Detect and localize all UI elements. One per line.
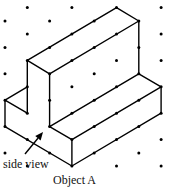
grid-dot	[26, 6, 29, 9]
grid-dot	[26, 33, 29, 36]
figure-caption: Object A	[53, 173, 96, 187]
grid-dot	[4, 46, 7, 49]
grid-dot	[160, 33, 163, 36]
object-edge	[50, 21, 139, 74]
grid-dot	[115, 165, 118, 168]
object-edge	[27, 60, 49, 73]
grid-dot	[160, 138, 163, 141]
grid-dot	[48, 20, 51, 23]
grid-dot	[160, 6, 163, 9]
grid-dot	[4, 20, 7, 23]
object-edge	[5, 100, 27, 113]
grid-dot	[160, 59, 163, 62]
grid-dot	[4, 72, 7, 75]
grid-dot	[4, 152, 7, 155]
isometric-object-diagram: side view Object A	[0, 0, 177, 188]
object-edge	[5, 87, 27, 100]
grid-dot	[93, 72, 96, 75]
side-view-arrow-icon	[25, 132, 43, 154]
grid-dot	[115, 59, 118, 62]
grid-dot	[70, 85, 73, 88]
object-edge	[72, 113, 161, 166]
object-edge	[27, 8, 116, 61]
object-edge	[72, 87, 161, 140]
object-edge	[117, 8, 139, 21]
grid-dot	[160, 165, 163, 168]
grid-dot	[70, 6, 73, 9]
object-edge	[139, 74, 161, 87]
side-view-label: side view	[3, 157, 49, 171]
grid-dot	[137, 152, 140, 155]
object-edge	[50, 74, 139, 127]
object-edge	[50, 127, 72, 140]
